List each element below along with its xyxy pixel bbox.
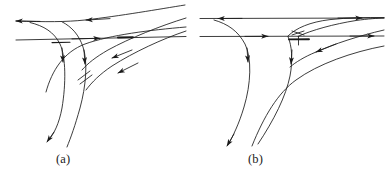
panel-b-branch-curve-2 — [258, 37, 292, 145]
panel-b-branch-curve-1 — [214, 20, 250, 145]
panel-b-arrow-branch-1-end — [227, 134, 234, 146]
panel-b-arrow-diagonal-1 — [316, 44, 336, 52]
panel-b-drawing — [200, 18, 384, 146]
panel-a-arrow-horizontal-right — [72, 38, 100, 39]
panel-a-diagonal-2 — [86, 31, 186, 90]
figure-drawing — [0, 0, 385, 176]
panel-a-caption: (a) — [56, 152, 70, 167]
panel-b-diagonal-1 — [290, 30, 384, 67]
panel-a-diagonal-1 — [82, 18, 186, 70]
panel-a-arrow-branch-2 — [84, 50, 85, 64]
panel-b-right-branch — [298, 18, 384, 36]
panel-a-slash-mark-2 — [80, 75, 92, 84]
panel-a-drawing — [16, 5, 186, 147]
panel-b-arrow-branch-1 — [247, 48, 248, 62]
figure-container: (a) (b) — [0, 0, 385, 176]
panel-b-caption: (b) — [248, 152, 263, 167]
panel-a-arrow-branch-1-end — [47, 132, 54, 142]
panel-a-branch-curve-2 — [62, 22, 86, 147]
panel-a-arrow-diagonal-1 — [112, 50, 132, 58]
panel-a-arrow-diagonal-2 — [118, 63, 138, 73]
panel-a-slash-mark-1 — [78, 71, 90, 80]
panel-b-diagonal-2 — [252, 46, 384, 146]
panel-a-branch-curve-1 — [30, 23, 65, 142]
